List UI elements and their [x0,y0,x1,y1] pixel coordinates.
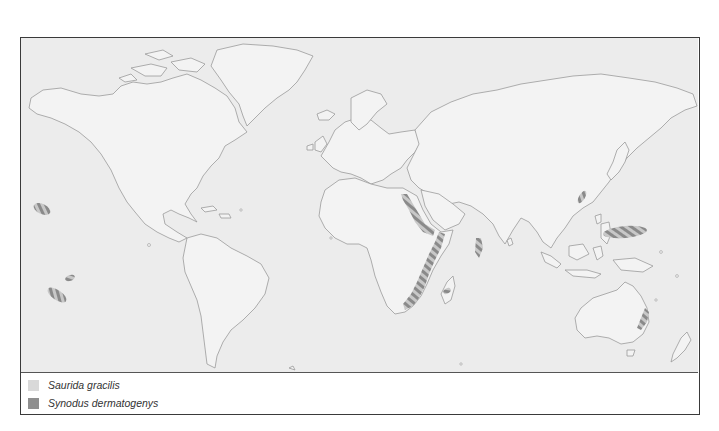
legend-swatch-saurida-gracilis [28,380,39,391]
legend-label: Saurida gracilis [48,379,120,391]
legend-item-synodus-dermatogenys: Synodus dermatogenys [28,396,158,410]
north-america [29,74,247,242]
new-zealand [671,332,691,362]
legend-swatch-synodus-dermatogenys [28,398,39,409]
legend-item-saurida-gracilis: Saurida gracilis [28,378,120,392]
indonesia [541,252,561,268]
world-map-svg [21,38,698,372]
landmasses [29,44,697,370]
range-hawaii [32,201,53,218]
legend: Saurida gracilis Synodus dermatogenys [21,374,698,414]
range-maldives [475,238,483,258]
europe [321,118,421,184]
map-figure: Saurida gracilis Synodus dermatogenys [20,37,700,415]
south-america [183,234,269,368]
world-map [21,38,698,373]
range-tuamotu [45,285,69,306]
range-marquesas [64,273,75,282]
top-artifact [395,0,415,4]
legend-label: Synodus dermatogenys [48,397,158,409]
australia [575,282,649,344]
